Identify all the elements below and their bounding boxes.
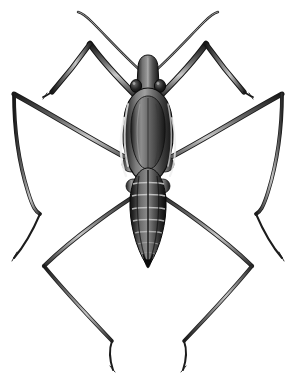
eye-highlight-right xyxy=(157,82,160,85)
illustration-figure xyxy=(0,0,295,375)
water-strider-illustration xyxy=(0,0,295,375)
eye-highlight-left xyxy=(133,82,136,85)
